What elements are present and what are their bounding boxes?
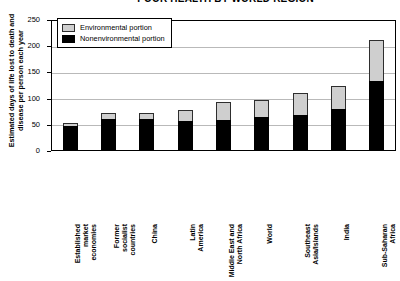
chart-legend: Environmental portion Nonenvironmental p… (57, 18, 172, 48)
bar-segment-environmental (369, 40, 384, 81)
x-axis-label: Latin America (189, 224, 205, 281)
legend-label-environmental: Environmental portion (80, 24, 152, 32)
x-axis-label: Former socialist countries (113, 224, 138, 281)
legend-item-nonenvironmental: Nonenvironmental portion (62, 33, 165, 44)
y-axis-title: Estimated days of life lost to death and… (8, 8, 25, 154)
bar-segment-environmental (331, 86, 346, 109)
y-tick-label: 0 (0, 147, 40, 155)
bar-segment-nonenvironmental (254, 117, 269, 151)
bar-latin-america[interactable] (178, 110, 193, 151)
bar-segment-nonenvironmental (101, 119, 116, 151)
bar-india[interactable] (331, 86, 346, 151)
bar-established-market-economies[interactable] (63, 123, 78, 151)
bar-segment-environmental (293, 93, 308, 115)
y-tick-label: 50 (0, 121, 40, 129)
y-tick-label: 200 (0, 42, 40, 50)
bar-china[interactable] (139, 113, 154, 151)
bar-middle-east-and-north-africa[interactable] (216, 102, 231, 151)
x-axis-label: Southeast Asia/Islands (304, 224, 320, 281)
bar-sub-saharan-africa[interactable] (369, 40, 384, 151)
y-tick-label: 250 (0, 16, 40, 24)
x-axis-label: Established market economies (74, 224, 99, 281)
bar-segment-nonenvironmental (369, 81, 384, 151)
bar-segment-nonenvironmental (139, 119, 154, 151)
bar-segment-nonenvironmental (63, 126, 78, 151)
legend-swatch-environmental-icon (62, 24, 75, 32)
legend-swatch-nonenvironmental-icon (62, 35, 75, 43)
x-axis-label: India (343, 224, 351, 281)
bar-segment-environmental (178, 110, 193, 121)
bar-world[interactable] (254, 100, 269, 151)
bar-southeast-asia-islands[interactable] (293, 93, 308, 151)
x-axis-labels: Established market economiesFormer socia… (51, 152, 396, 226)
bar-segment-nonenvironmental (331, 109, 346, 151)
bar-segment-environmental (254, 100, 269, 117)
bar-segment-nonenvironmental (293, 115, 308, 151)
bar-former-socialist-countries[interactable] (101, 113, 116, 151)
x-axis-label: China (151, 224, 159, 281)
x-axis-label: Middle East and North Africa (228, 224, 244, 281)
legend-item-environmental: Environmental portion (62, 22, 165, 33)
x-axis-label: World (266, 224, 274, 281)
chart-title: POOR HEALTH BY WORLD REGION (51, 0, 400, 3)
y-tick-label: 100 (0, 95, 40, 103)
bar-segment-nonenvironmental (216, 120, 231, 151)
bar-segment-nonenvironmental (178, 121, 193, 151)
y-tick-label: 150 (0, 68, 40, 76)
bar-segment-environmental (216, 102, 231, 120)
x-axis-label: Sub-Saharan Africa (381, 224, 397, 281)
legend-label-nonenvironmental: Nonenvironmental portion (80, 35, 165, 43)
